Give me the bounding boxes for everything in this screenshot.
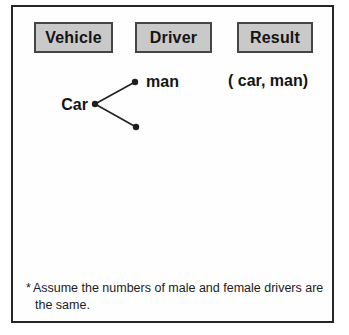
driver-node-label: man	[146, 74, 179, 90]
mapping-tree-graphic	[13, 7, 332, 321]
figure-canvas: Vehicle Driver Result Car man ( car, man…	[0, 0, 349, 335]
vehicle-node-label: Car	[58, 97, 88, 113]
branch-line-upper	[95, 82, 135, 104]
footnote: *Assume the numbers of male and female d…	[26, 280, 337, 314]
node-dot-man	[132, 79, 138, 85]
node-dot-car	[92, 101, 98, 107]
figure-frame: Vehicle Driver Result Car man ( car, man…	[11, 5, 334, 323]
branch-line-lower	[95, 104, 136, 127]
node-dot-unlabeled	[133, 124, 139, 130]
result-pair-label: ( car, man)	[228, 73, 308, 89]
footnote-asterisk: *	[26, 281, 33, 295]
footnote-text: Assume the numbers of male and female dr…	[33, 281, 323, 312]
